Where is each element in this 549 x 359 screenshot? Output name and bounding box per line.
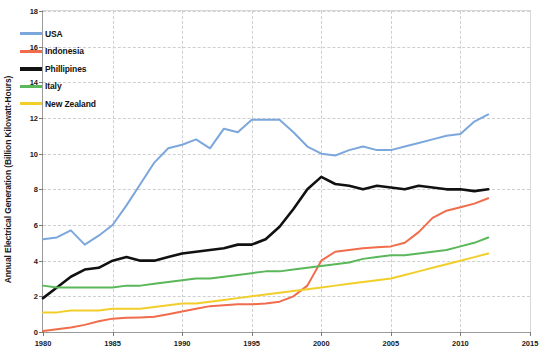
series-line-usa [43,114,488,244]
x-tick-label: 2010 [452,339,469,348]
legend-item[interactable]: New Zealand [20,98,96,109]
plot-area: 024681012141618 198019851990199520002005… [42,10,531,333]
legend-item[interactable]: Phillipines [20,63,96,74]
x-tick-label: 2000 [313,339,330,348]
legend-item-label: USA [45,29,63,39]
x-tick-mark [43,332,44,336]
y-tick-label: 10 [30,149,38,158]
y-tick-label: 4 [34,256,38,265]
legend-color-swatch [20,50,42,53]
x-tick-mark [460,332,461,336]
series-line-phillipines [43,177,488,298]
legend-item[interactable]: USA [20,28,96,39]
x-tick-mark [182,332,183,336]
x-tick-label: 1980 [35,339,52,348]
legend-color-swatch [20,85,42,88]
legend-item-label: Phillipines [45,64,86,74]
legend-item-label: Indonesia [45,46,84,56]
y-tick-label: 2 [34,292,38,301]
x-tick-mark [321,332,322,336]
y-axis-label: Annual Electrical Generation (Billion Ki… [0,0,16,359]
legend-item[interactable]: Italy [20,81,96,92]
legend-color-swatch [20,102,42,105]
x-tick-mark [252,332,253,336]
x-tick-mark [113,332,114,336]
legend-color-swatch [20,67,42,71]
y-tick-label: 18 [30,7,38,16]
x-tick-mark [530,332,531,336]
plot-area-wrapper: 024681012141618 198019851990199520002005… [42,10,531,333]
legend-color-swatch [20,32,42,35]
legend-item[interactable]: Indonesia [20,46,96,57]
x-tick-mark [391,332,392,336]
x-tick-label: 2015 [522,339,539,348]
x-tick-label: 1995 [243,339,260,348]
y-tick-label: 8 [34,185,38,194]
data-series-layer [43,11,530,332]
chart-legend: USAIndonesiaPhillipinesItalyNew Zealand [20,28,96,109]
x-tick-label: 1990 [174,339,191,348]
series-line-indonesia [43,198,488,331]
y-tick-label: 6 [34,221,38,230]
x-tick-label: 1985 [104,339,121,348]
y-tick-label: 0 [34,328,38,337]
x-tick-label: 2005 [383,339,400,348]
legend-item-label: Italy [45,81,62,91]
legend-item-label: New Zealand [45,99,96,109]
line-chart-figure: Annual Electrical Generation (Billion Ki… [0,0,549,359]
y-tick-label: 12 [30,114,38,123]
